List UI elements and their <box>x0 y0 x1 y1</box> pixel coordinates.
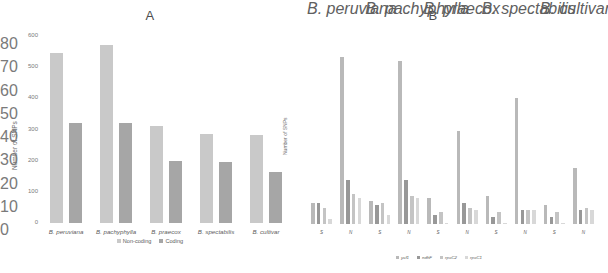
panel-b-bar-group <box>365 38 394 224</box>
panel-b-bar <box>590 210 594 224</box>
panel-b-x-label: B. praecox <box>423 0 481 18</box>
panel-a-y-tick: 600 <box>16 32 38 38</box>
legend-swatch-icon <box>117 239 121 243</box>
panel-b-y-tick: 60 <box>0 82 18 100</box>
legend-swatch-icon <box>396 256 399 259</box>
panel-b-bar-group <box>423 38 452 224</box>
panel-a-plot-area <box>41 36 291 223</box>
panel-b-bar <box>311 203 315 224</box>
panel-a-bar-group <box>141 36 191 223</box>
panel-b-bar <box>497 212 501 224</box>
panel-b-bar <box>468 208 472 224</box>
panel-b-bar <box>515 98 519 224</box>
panel-b-subgroup-label: S <box>540 230 569 235</box>
panel-b-subgroup-label: S <box>365 230 394 235</box>
panel-b-subgroup-label: N <box>453 230 482 235</box>
panel-b-y-tick: 0 <box>0 221 9 239</box>
panel-b-bar <box>555 212 559 224</box>
panel-a-legend-label: Non-coding <box>123 238 152 244</box>
panel-b-bar <box>486 196 490 224</box>
panel-b-legend-item: rpoC1 <box>465 255 482 260</box>
panel-b-subgroup-label: S <box>307 230 336 235</box>
panel-b-subgroup-label: S <box>423 230 452 235</box>
panel-b-bar <box>358 198 362 224</box>
panel-a-bar <box>119 123 132 223</box>
panel-b-subgroup-label: N <box>511 230 540 235</box>
panel-b-bar-group <box>482 38 511 224</box>
panel-b-bar <box>491 217 495 224</box>
panel-b-bar <box>503 223 507 224</box>
panel-a-legend-item: Non-coding <box>117 238 152 244</box>
panel-b-bar-group <box>540 38 569 224</box>
panel-b-bar <box>573 168 577 224</box>
panel-b-subgroup-label: N <box>394 230 423 235</box>
panel-b-plot-area <box>307 38 598 224</box>
panel-b-x-label: B. pachyphylla <box>365 0 423 18</box>
legend-swatch-icon <box>159 239 163 243</box>
panel-b-bar-group <box>307 38 336 224</box>
panel-b-bar <box>585 208 589 224</box>
panel-a-bar <box>150 126 163 223</box>
panel-b-y-tick: 70 <box>0 58 18 76</box>
panel-b-y-tick: 20 <box>0 175 18 193</box>
panel-b-bar <box>352 194 356 224</box>
panel-a-y-tick: 0 <box>16 219 38 225</box>
panel-b-x-label: B. spectabilis <box>482 0 540 18</box>
panel-a-letter: A <box>0 8 300 23</box>
panel-a-bar-group <box>191 36 241 223</box>
panel-b-subgroup-label: N <box>336 230 365 235</box>
panel-b-subgroup-label: N <box>569 230 598 235</box>
panel-a-legend: Non-codingCoding <box>0 238 300 244</box>
panel-a-bar <box>219 162 232 223</box>
panel-b-bar <box>445 223 449 224</box>
panel-b-bar <box>550 217 554 224</box>
panel-a-bar-group <box>91 36 141 223</box>
panel-b-bar <box>457 131 461 224</box>
legend-swatch-icon <box>440 256 443 259</box>
panel-b-bar-group <box>394 38 423 224</box>
panel-a-bar <box>200 134 213 223</box>
figure-root: A Number of SNPs 0100200300400500600 B. … <box>0 0 608 273</box>
panel-b-bar <box>416 198 420 224</box>
panel-b-y-tick: 80 <box>0 35 18 53</box>
panel-a-y-tick: 500 <box>16 63 38 69</box>
panel-b-bar <box>375 205 379 224</box>
panel-a-bar <box>169 161 182 223</box>
panel-b-bar <box>474 210 478 224</box>
panel-b-legend-item: rpoC2 <box>440 255 457 260</box>
panel-b-bar <box>387 215 391 224</box>
panel-b-bar <box>328 219 332 224</box>
panel-b-legend-label: ycf1 <box>401 255 409 260</box>
panel-b-bar <box>433 215 437 224</box>
panel-a-x-label: B. spectabilis <box>191 228 241 235</box>
legend-swatch-icon <box>465 256 468 259</box>
panel-a-x-label: B. pachyphylla <box>91 228 141 235</box>
panel-b-bar <box>462 203 466 224</box>
panel-b-bar <box>340 57 344 224</box>
panel-b-bar <box>579 210 583 224</box>
panel-b-y-tick: 50 <box>0 105 18 123</box>
panel-b-bar <box>521 210 525 224</box>
panel-b-bar-group <box>511 38 540 224</box>
panel-b-bar <box>369 201 373 224</box>
panel-b-y-tick: 10 <box>0 198 18 216</box>
panel-b-bar <box>398 61 402 224</box>
panel-b-bar <box>561 223 565 224</box>
panel-a-y-tick: 100 <box>16 188 38 194</box>
panel-b-y-tick: 40 <box>0 128 18 146</box>
panel-b-bar <box>439 212 443 224</box>
panel-b-bar <box>381 203 385 224</box>
legend-swatch-icon <box>417 256 420 259</box>
panel-b-bar <box>317 203 321 224</box>
panel-b-bar <box>532 210 536 224</box>
panel-a-legend-label: Coding <box>165 238 183 244</box>
panel-b-bar-group <box>336 38 365 224</box>
panel-b-bar <box>410 196 414 224</box>
panel-b-x-label: B. cultivar <box>540 0 598 18</box>
panel-a-bar <box>50 53 63 223</box>
panel-b-y-axis-label: Number of SNPs <box>282 117 288 155</box>
panel-a: A Number of SNPs 0100200300400500600 B. … <box>0 0 300 273</box>
panel-b-bar <box>323 208 327 224</box>
panel-b-bar-group <box>569 38 598 224</box>
panel-a-x-label: B. praecox <box>141 228 191 235</box>
